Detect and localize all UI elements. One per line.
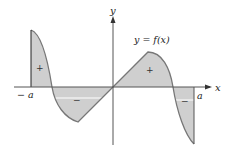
sign-minus-left: −	[73, 95, 81, 105]
y-axis-arrow-icon	[111, 16, 116, 23]
sign-minus-right: −	[181, 96, 189, 106]
sign-plus-right: +	[146, 65, 154, 75]
tick-label-neg-a: − a	[17, 89, 34, 100]
sign-plus-left: +	[36, 63, 44, 73]
x-axis-arrow-icon	[205, 85, 212, 90]
tick-label-pos-a: a	[197, 90, 203, 101]
y-axis-label: y	[109, 5, 116, 16]
curve-label: y = f(x)	[133, 34, 170, 45]
chart: y x y = f(x) − a a + − + −	[0, 0, 231, 153]
x-axis-label: x	[215, 82, 221, 93]
shaded-region-left-positive	[31, 30, 52, 87]
